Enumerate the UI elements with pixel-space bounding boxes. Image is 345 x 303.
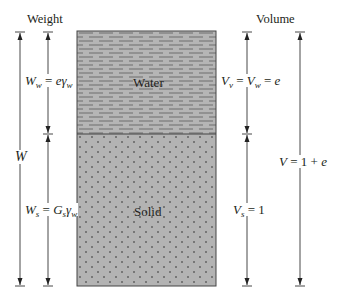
total-weight-label: W bbox=[14, 150, 28, 164]
water-label: Water bbox=[133, 76, 164, 89]
solid-volume-equation: Vs = 1 bbox=[232, 203, 266, 216]
total-volume-equation: V = 1 + e bbox=[278, 155, 328, 168]
voids-volume-equation: Vv = Vw = e bbox=[220, 74, 281, 87]
volume-header: Volume bbox=[256, 13, 295, 26]
water-weight-equation: Ww = eγw bbox=[24, 74, 74, 87]
weight-header: Weight bbox=[27, 13, 63, 26]
phase-diagram-graphic bbox=[0, 0, 345, 303]
phase-box bbox=[77, 31, 216, 286]
solid-label: Solid bbox=[134, 205, 161, 218]
solid-weight-equation: Ws = Gsγw bbox=[24, 203, 78, 216]
